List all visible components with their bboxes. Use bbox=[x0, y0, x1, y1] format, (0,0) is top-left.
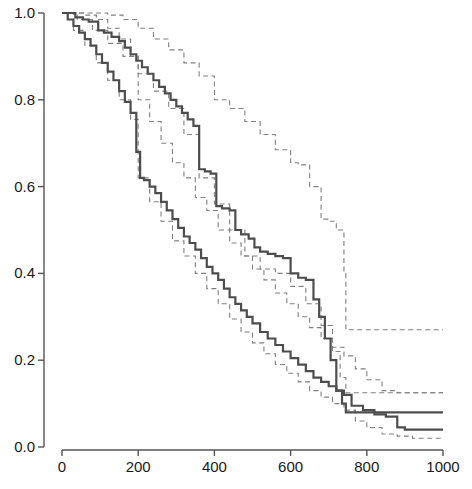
y-axis-tick-label: 0.2 bbox=[14, 351, 35, 368]
x-axis-tick-label: 1000 bbox=[426, 458, 459, 475]
y-axis-tick-label: 0.0 bbox=[14, 438, 35, 455]
group-2-ci-lower bbox=[62, 13, 443, 438]
y-axis-tick-label: 0.6 bbox=[14, 178, 35, 195]
y-axis-tick-label: 1.0 bbox=[14, 4, 35, 21]
x-axis-tick-label: 800 bbox=[354, 458, 379, 475]
y-axis-tick-label: 0.8 bbox=[14, 91, 35, 108]
x-axis-tick-label: 200 bbox=[126, 458, 151, 475]
x-axis-tick-label: 0 bbox=[58, 458, 66, 475]
survival-plot-figure: 0.00.20.40.60.81.002004006008001000 bbox=[0, 0, 472, 489]
plot-canvas: 0.00.20.40.60.81.002004006008001000 bbox=[0, 0, 472, 489]
y-axis-tick-label: 0.4 bbox=[14, 264, 35, 281]
x-axis-tick-label: 400 bbox=[202, 458, 227, 475]
group-1-ci-upper bbox=[62, 13, 443, 330]
group-1-survival bbox=[62, 13, 443, 412]
x-axis-tick-label: 600 bbox=[278, 458, 303, 475]
group-2-survival bbox=[62, 13, 443, 430]
